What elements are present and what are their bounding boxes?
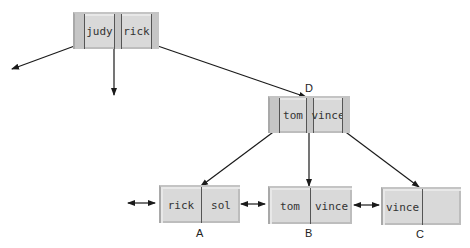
edge-D-to-A xyxy=(201,130,276,186)
node-D-key-2: vince xyxy=(314,98,342,133)
leaf-A: rick sol xyxy=(159,185,240,223)
leaf-C-key-1: vince xyxy=(383,189,422,225)
node-D-pointer-strip-right xyxy=(343,98,350,133)
leaf-A-label: A xyxy=(196,227,203,239)
leaf-A-key-1: rick xyxy=(161,187,201,223)
node-D-pointer-strip-left xyxy=(270,98,279,133)
leaf-A-key-2: sol xyxy=(202,187,240,223)
leaf-C-label: C xyxy=(416,228,424,240)
leaf-B-key-2: vince xyxy=(311,188,352,224)
leaf-B-label: B xyxy=(305,227,312,239)
leaf-B-key-1: tom xyxy=(270,188,310,224)
root-key-1: judy xyxy=(85,14,114,49)
node-D-label: D xyxy=(305,82,313,94)
leaf-B: tom vince xyxy=(268,186,352,224)
leaf-C: vince xyxy=(381,187,461,225)
root-pointer-strip-left xyxy=(75,14,84,49)
node-D-key-1: tom xyxy=(280,98,306,133)
root-pointer-strip-right xyxy=(152,14,159,49)
leaf-C-key-2 xyxy=(423,189,461,225)
edge-root-left xyxy=(12,44,80,69)
root-node: judy rick xyxy=(73,12,159,49)
node-D: tom vince xyxy=(268,96,350,133)
edge-D-to-C xyxy=(343,130,419,187)
edge-root-to-D xyxy=(152,44,306,97)
root-key-2: rick xyxy=(122,14,151,49)
